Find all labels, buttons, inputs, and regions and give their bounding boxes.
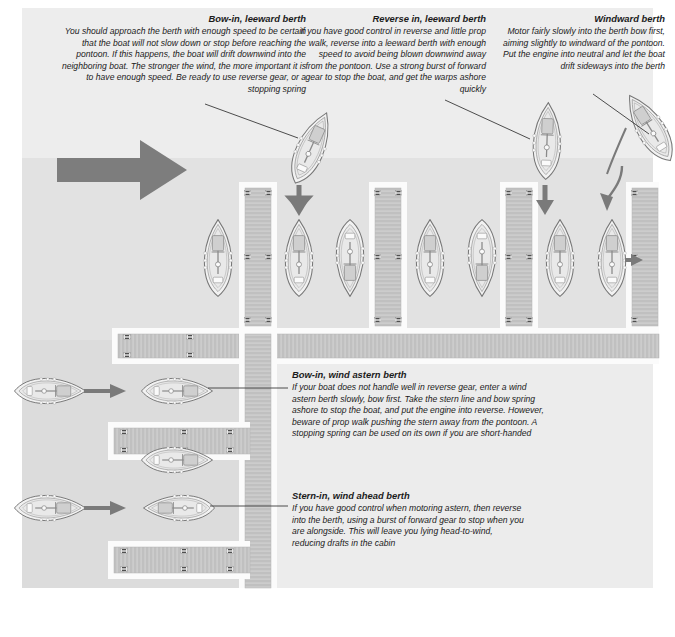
caption-heading: Stern-in, wind ahead berth	[292, 489, 524, 503]
caption-body: If you have good control in reverse and …	[300, 26, 486, 94]
leader-line-windward	[593, 94, 649, 134]
diagram-root: Bow-in, leeward berth You should approac…	[0, 0, 675, 637]
approach-arrow-windward	[600, 166, 622, 211]
leader-line-bow-in-leeward	[205, 104, 298, 138]
caption-body: You should approach the berth with enoug…	[62, 26, 306, 94]
caption-bow-in-leeward: Bow-in, leeward berth You should approac…	[56, 12, 306, 96]
caption-heading: Bow-in, leeward berth	[56, 12, 306, 26]
caption-body: If you have good control when motoring a…	[292, 503, 524, 548]
caption-bow-in-wind-astern: Bow-in, wind astern berth If your boat d…	[292, 368, 544, 440]
caption-heading: Reverse in, leeward berth	[300, 12, 486, 26]
caption-body: Motor fairly slowly into the berth bow f…	[503, 26, 665, 71]
approach-arrow-wind-ahead	[84, 501, 126, 515]
approach-arrow-windward-side	[625, 254, 643, 266]
caption-heading: Bow-in, wind astern berth	[292, 368, 544, 382]
leader-line-reverse-in-leeward	[445, 100, 530, 139]
caption-stern-in-wind-ahead: Stern-in, wind ahead berth If you have g…	[292, 489, 524, 549]
approach-arrow-bow-in-leeward	[290, 185, 308, 216]
caption-reverse-in-leeward: Reverse in, leeward berth If you have go…	[300, 12, 486, 96]
approach-arrow-reverse-in-leeward	[536, 185, 554, 215]
caption-heading: Windward berth	[495, 12, 665, 26]
wind-direction-arrow	[57, 140, 187, 200]
approach-arrow-wind-astern	[84, 384, 126, 398]
caption-windward-berth: Windward berth Motor fairly slowly into …	[495, 12, 665, 72]
caption-body: If your boat does not handle well in rev…	[292, 382, 544, 438]
